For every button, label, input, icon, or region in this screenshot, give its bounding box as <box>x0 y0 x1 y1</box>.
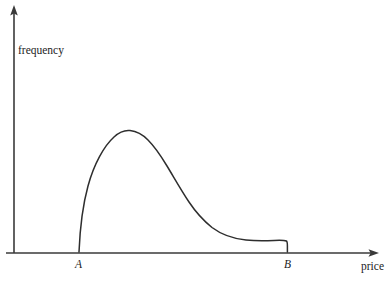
distribution-chart <box>0 0 390 284</box>
x-tick-label-a: A <box>75 259 82 271</box>
x-tick-label-b: B <box>284 259 291 271</box>
y-axis-label: frequency <box>18 45 64 57</box>
x-axis-label: price <box>361 261 384 273</box>
figure-container: frequency price A B <box>0 0 390 284</box>
frequency-distribution-curve <box>79 130 287 252</box>
